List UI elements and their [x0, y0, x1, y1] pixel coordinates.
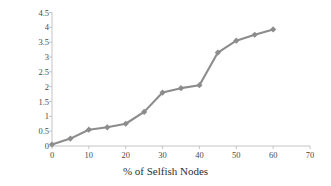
- x-tick-label: 60: [269, 150, 278, 160]
- x-tick-label: 10: [85, 150, 94, 160]
- data-point-marker: [178, 85, 184, 91]
- x-tick-label: 50: [232, 150, 241, 160]
- axis-lines: [52, 12, 310, 146]
- x-tick-label: 70: [306, 150, 315, 160]
- data-series-line: [52, 29, 273, 144]
- data-point-marker: [49, 141, 55, 147]
- x-axis-title: % of Selfish Nodes: [0, 165, 331, 177]
- data-point-marker: [104, 124, 110, 130]
- x-tick-label: 20: [121, 150, 130, 160]
- delay-vs-selfish-nodes-chart: Delay (seconds) 00.511.522.533.544.5 010…: [0, 0, 331, 186]
- data-series-markers: [49, 26, 276, 147]
- x-tick-label: 40: [195, 150, 204, 160]
- data-point-marker: [252, 32, 258, 38]
- x-axis-tick-labels: 010203040506070: [0, 150, 331, 162]
- x-tick-label: 30: [158, 150, 167, 160]
- x-tick-label: 0: [50, 150, 54, 160]
- data-point-marker: [270, 26, 276, 32]
